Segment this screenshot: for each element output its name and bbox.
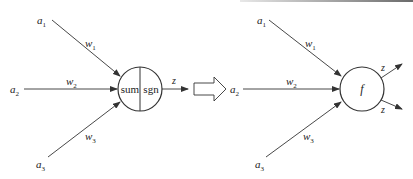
weight-label-w2: w2	[66, 75, 77, 90]
input-label-a3: a3	[36, 158, 46, 173]
weight-label-w1: w1	[85, 37, 96, 52]
output-label-z-upper: z	[380, 62, 385, 73]
weight-label-w3: w3	[85, 130, 96, 145]
transform-arrow	[194, 77, 226, 101]
output-label-z-lower: z	[380, 104, 385, 115]
weight-label-w2: w2	[286, 75, 297, 90]
node-label-sum: sum	[121, 83, 140, 95]
top-border	[240, 0, 413, 2]
node-label-sgn: sgn	[143, 83, 159, 95]
output-label-z: z	[171, 75, 176, 86]
input-label-a3: a3	[255, 158, 265, 173]
right-neuron-model: f z z a1 a2 a3 w1 w2 w3	[230, 14, 402, 173]
input-label-a2: a2	[230, 83, 240, 98]
neuron-diagram: sum sgn z a1 a2 a3 w1 w2 w3 f z	[0, 0, 413, 179]
input-label-a2: a2	[10, 83, 20, 98]
input-label-a1: a1	[37, 14, 47, 29]
weight-label-w3: w3	[303, 130, 314, 145]
input-label-a1: a1	[257, 14, 267, 29]
left-neuron-model: sum sgn z a1 a2 a3 w1 w2 w3	[10, 14, 188, 173]
edge-a3	[48, 102, 120, 157]
